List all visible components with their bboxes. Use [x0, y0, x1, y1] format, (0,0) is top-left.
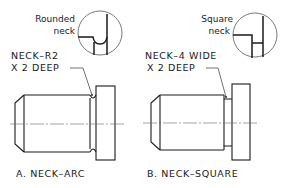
caption-neck-square: B. NECK–SQUARE — [147, 168, 238, 179]
part-b-shaft — [151, 84, 250, 160]
caption-neck-arc: A. NECK–ARC — [16, 168, 85, 179]
rounded-neck-detail-circle — [78, 11, 122, 55]
part-a-shaft — [15, 86, 115, 160]
detail-label-neck-b: neck — [209, 26, 231, 36]
panel-a-neck-arc: Rounded neck NECK–R2 X 2 DEEP — [10, 11, 124, 179]
detail-label-square: Square — [201, 14, 233, 24]
leader-line-b — [206, 68, 226, 97]
neck-drawing: Rounded neck NECK–R2 X 2 DEEP — [0, 0, 286, 188]
callout-neck-r2: NECK–R2 — [11, 50, 59, 61]
callout-x2-deep-b: X 2 DEEP — [147, 62, 195, 73]
callout-x2-deep-a: X 2 DEEP — [11, 62, 59, 73]
panel-b-neck-square: Square neck NECK–4 WIDE X 2 DEEP B. NECK… — [143, 13, 277, 179]
callout-neck-4-wide: NECK–4 WIDE — [145, 50, 217, 61]
square-neck-detail-circle — [233, 13, 277, 58]
detail-label-rounded: Rounded — [35, 14, 75, 24]
leader-line-a — [70, 68, 92, 95]
detail-label-neck-a: neck — [54, 26, 76, 36]
